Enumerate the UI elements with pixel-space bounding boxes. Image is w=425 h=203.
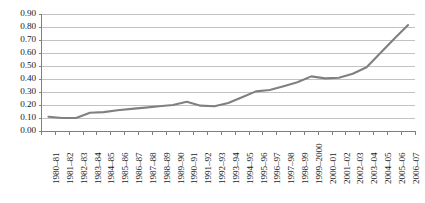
- x-axis-tick-label: 1985–86: [121, 153, 130, 184]
- x-axis-tick-label: 1986–87: [135, 153, 144, 184]
- x-axis-tick-label: 1999–2000: [315, 144, 324, 184]
- x-axis-tick-label: 1989–90: [177, 153, 186, 184]
- x-axis-tick-labels: 1980–811981–821982–831983–841984–851985–…: [0, 0, 425, 203]
- x-axis-tick-label: 1982–83: [80, 153, 89, 184]
- x-axis-tick-label: 1995–96: [260, 153, 269, 184]
- x-axis-tick-label: 2001–02: [343, 153, 352, 184]
- line-chart: 0.900.800.700.600.500.400.300.200.100.00…: [0, 0, 425, 203]
- x-axis-tick-label: 1980–81: [52, 153, 61, 184]
- x-axis-tick-label: 1981–82: [66, 153, 75, 184]
- x-axis-tick-label: 1993–94: [232, 153, 241, 184]
- x-axis-tick-label: 1991–92: [204, 153, 213, 184]
- x-axis-tick-label: 1990–91: [190, 153, 199, 184]
- x-axis-tick-label: 2006–07: [412, 153, 421, 184]
- x-axis-tick-label: 2003–04: [370, 153, 379, 184]
- x-axis-tick-label: 1996–97: [273, 153, 282, 184]
- x-axis-tick-label: 2002–03: [356, 153, 365, 184]
- x-axis-tick-label: 2004–05: [384, 153, 393, 184]
- x-axis-tick-label: 1994–95: [246, 153, 255, 184]
- x-axis-tick-label: 1988–89: [163, 153, 172, 184]
- x-axis-tick-label: 1983–84: [94, 153, 103, 184]
- x-axis-tick-label: 1992–93: [218, 153, 227, 184]
- x-axis-tick-label: 2005–06: [398, 153, 407, 184]
- x-axis-tick-label: 1997–98: [287, 153, 296, 184]
- x-axis-tick-label: 2000–01: [329, 153, 338, 184]
- x-axis-tick-label: 1998–99: [301, 153, 310, 184]
- x-axis-tick-label: 1984–85: [107, 153, 116, 184]
- x-axis-tick-label: 1987–88: [149, 153, 158, 184]
